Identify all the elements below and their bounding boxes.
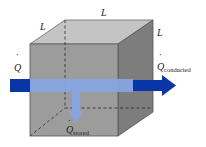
arrow-inside-segment — [30, 79, 133, 92]
label-q-in-dot: · — [16, 49, 19, 60]
arrowhead-right-icon — [162, 75, 176, 96]
label-q-conducted-dot: · — [159, 49, 162, 60]
label-q-stored-sub: stored — [73, 129, 90, 136]
arrow-inlet-segment — [10, 79, 30, 92]
label-q-in: Q — [14, 62, 22, 73]
label-side-top: L — [100, 7, 107, 18]
label-side-left: L — [39, 21, 46, 32]
arrow-outlet-segment — [133, 80, 163, 91]
cube-heat-diagram: L L L · Q · Q conducted · Q stored — [0, 0, 206, 147]
label-side-right: L — [156, 27, 163, 38]
label-q-conducted-sub: conducted — [164, 66, 191, 73]
